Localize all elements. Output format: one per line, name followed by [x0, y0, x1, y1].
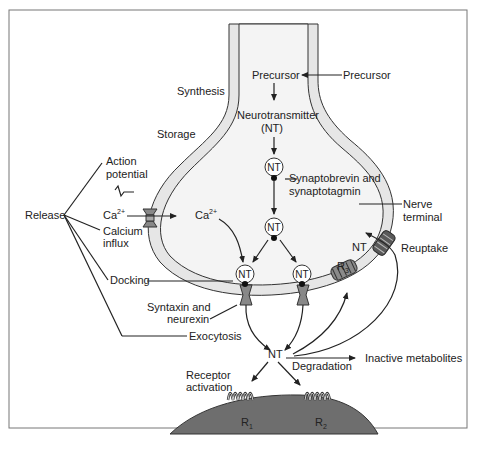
- label-release: Release: [25, 209, 65, 221]
- label-nerve: Nerve: [403, 198, 432, 210]
- label-inactive-metabolites: Inactive metabolites: [365, 352, 463, 364]
- svg-text:NT: NT: [295, 269, 308, 280]
- label-exocytosis: Exocytosis: [189, 330, 242, 342]
- svg-text:NT: NT: [267, 222, 280, 233]
- label-neurotransmitter: Neurotransmitter: [237, 109, 319, 121]
- label-synaptobrevin: Synaptobrevin and: [289, 172, 381, 184]
- label-reuptake: Reuptake: [401, 242, 448, 254]
- label-action: Action: [106, 155, 137, 167]
- label-precursor-outside: Precursor: [343, 69, 391, 81]
- label-syntaxin: Syntaxin and: [147, 301, 211, 313]
- svg-text:NT: NT: [238, 269, 251, 280]
- label-terminal: terminal: [403, 211, 442, 223]
- label-precursor-inside: Precursor: [252, 69, 300, 81]
- synapse-diagram: NT NT NT NT: [0, 0, 477, 456]
- label-influx: influx: [103, 237, 129, 249]
- label-synaptotagmin: synaptotagmin: [289, 185, 361, 197]
- label-calcium: Calcium: [103, 225, 143, 237]
- label-potential-text: potential: [106, 168, 148, 180]
- label-docking: Docking: [110, 274, 150, 286]
- svg-text:NT: NT: [267, 162, 280, 173]
- label-synthesis: Synthesis: [177, 85, 225, 97]
- label-activation: activation: [186, 381, 232, 393]
- label-receptor: Receptor: [186, 369, 231, 381]
- label-nt-abbrev: (NT): [261, 122, 283, 134]
- label-neurexin: neurexin: [167, 313, 209, 325]
- label-nt-synapse: NT: [268, 348, 283, 360]
- label-degradation: Degradation: [292, 360, 352, 372]
- label-nt-reuptake: NT: [352, 241, 367, 253]
- label-storage: Storage: [157, 128, 196, 140]
